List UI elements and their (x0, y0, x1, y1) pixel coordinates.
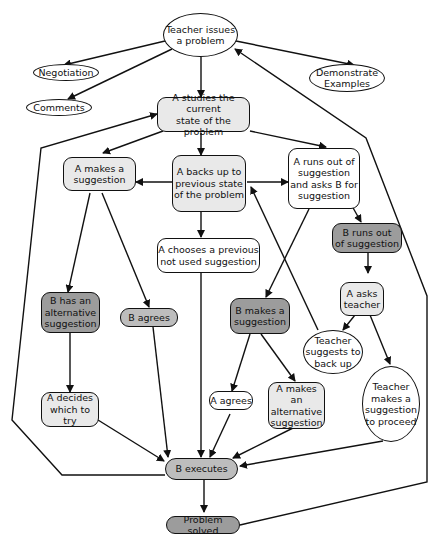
edge-aagrees-executes (210, 414, 230, 457)
node-b-executes: B executes (165, 458, 238, 480)
node-a-asks-teacher: A asks teacher (340, 282, 384, 316)
edge-proceed-executes (240, 441, 383, 466)
edge-loop-right (235, 49, 427, 525)
edge-teacher-negotiation (64, 41, 165, 65)
edge-makes-bhasalt (68, 193, 90, 292)
node-a-decides: A decides which to try (41, 392, 99, 427)
node-teacher-suggests-back-up: Teacher suggests to back up (303, 330, 363, 374)
node-a-agrees: A agrees (209, 391, 253, 410)
node-a-makes-alternative: A makes an alternative suggestion (268, 382, 325, 429)
edge-bmakes-aagrees (232, 334, 250, 391)
node-a-chooses: A chooses a previous not used suggestion (157, 238, 260, 273)
node-a-makes-suggestion: A makes a suggestion (63, 157, 136, 191)
node-a-studies: A studies the current state of the probl… (157, 97, 250, 132)
edge-runsout-bmakes (266, 209, 309, 297)
edge-studies-runsout (250, 131, 326, 147)
edge-studies-makes (103, 131, 163, 153)
edge-bagrees-executes (153, 327, 168, 457)
node-teacher-issues: Teacher issues a problem (163, 13, 238, 57)
node-demonstrate-examples: Demonstrate Examples (309, 64, 385, 92)
node-problem-solved: Problem solved (166, 516, 240, 534)
node-b-has-alternative: B has an alternative suggestion (41, 292, 100, 333)
node-b-agrees: B agrees (120, 308, 178, 327)
edge-decides-executes (98, 420, 164, 461)
node-comments: Comments (26, 99, 92, 116)
edge-bmakes-amakesalt (261, 334, 295, 381)
edge-asks-proceed (370, 315, 390, 364)
node-teacher-suggestion-proceed: Teacher makes a suggestion to proceed (362, 366, 420, 442)
edge-makes-bagrees (102, 193, 149, 307)
edge-asks-backup (343, 315, 355, 330)
node-a-runs-out: A runs out of suggestion and asks B for … (288, 148, 360, 209)
node-negotiation: Negotiation (33, 64, 99, 81)
node-b-makes-suggestion: B makes a suggestion (230, 298, 290, 334)
node-b-runs-out: B runs out of suggestion (332, 223, 402, 253)
edge-amakesalt-executes (233, 427, 295, 458)
node-a-backs-up: A backs up to previous state of the prob… (172, 155, 246, 212)
